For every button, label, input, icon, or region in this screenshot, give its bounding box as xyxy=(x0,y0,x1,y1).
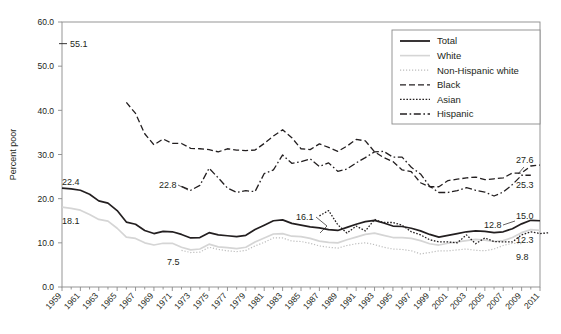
annotation-nonhispanic-white-low: 7.5 xyxy=(167,257,180,267)
y-tick-label: 30.0 xyxy=(37,150,54,160)
x-tick-label: 1963 xyxy=(80,290,100,311)
x-tick-label: 1975 xyxy=(190,290,210,311)
y-tick-label: 20.0 xyxy=(37,194,54,204)
x-tick-label: 1981 xyxy=(246,290,266,311)
x-tick-label: 1961 xyxy=(62,290,82,311)
y-tick-label: 50.0 xyxy=(37,61,54,71)
leader-black-end xyxy=(518,167,524,174)
x-tick-label: 1993 xyxy=(356,290,376,311)
annotation-hispanic-start: 22.8 xyxy=(159,180,177,190)
x-tick-label: 2009 xyxy=(503,290,523,311)
legend-label-black: Black xyxy=(437,79,460,90)
annotation-hispanic-end: 25.3 xyxy=(516,180,534,190)
annotation-total-end: 15.0 xyxy=(516,211,534,221)
x-tick-label: 2007 xyxy=(485,290,505,311)
x-tick-label: 2001 xyxy=(429,290,449,311)
x-tick-label: 1965 xyxy=(99,290,119,311)
x-tick-label: 2011 xyxy=(522,290,542,310)
x-tick-label: 1997 xyxy=(393,290,413,311)
y-tick-label: 40.0 xyxy=(37,106,54,116)
leader-white-end xyxy=(503,221,515,225)
y-tick-label: 10.0 xyxy=(37,238,54,248)
annotation-asian-end: 12.3 xyxy=(516,235,534,245)
y-axis-title: Percent poor xyxy=(8,129,18,181)
annotation-white-end: 12.8 xyxy=(484,220,502,230)
x-tick-label: 1973 xyxy=(172,290,192,311)
legend-label-hispanic: Hispanic xyxy=(437,108,474,119)
x-tick-label: 1969 xyxy=(135,290,155,311)
leader-asian-start xyxy=(316,217,327,233)
x-tick-label: 1995 xyxy=(374,290,394,311)
x-tick-label: 1979 xyxy=(227,290,247,311)
chart-container: 0.010.020.030.040.050.060.0Percent poor1… xyxy=(0,0,561,334)
annotation-black-1959-offchart: 55.1 xyxy=(70,39,88,49)
poverty-rate-line-chart: 0.010.020.030.040.050.060.0Percent poor1… xyxy=(0,0,561,334)
x-tick-label: 1983 xyxy=(264,290,284,311)
x-tick-label: 1959 xyxy=(43,290,63,311)
x-tick-label: 1987 xyxy=(301,290,321,311)
annotation-total-start: 22.4 xyxy=(62,177,80,187)
legend-label-total: Total xyxy=(437,35,457,46)
legend-label-non-hispanic-white: Non-Hispanic white xyxy=(437,65,519,76)
x-tick-label: 1999 xyxy=(411,290,431,311)
x-tick-label: 1989 xyxy=(319,290,339,311)
x-tick-label: 2005 xyxy=(466,290,486,311)
leader-hispanic-start xyxy=(178,185,188,190)
y-tick-label: 60.0 xyxy=(37,17,54,27)
x-tick-label: 1971 xyxy=(154,290,174,311)
series-line-hispanic xyxy=(182,151,531,196)
x-tick-label: 1977 xyxy=(209,290,229,311)
annotation-asian-start: 16.1 xyxy=(296,212,314,222)
annotation-white-start: 18.1 xyxy=(62,216,80,226)
x-tick-label: 1967 xyxy=(117,290,137,311)
x-tick-label: 2003 xyxy=(448,290,468,311)
annotation-nonhispanic-white-end: 9.8 xyxy=(516,252,529,262)
legend-label-white: White xyxy=(437,50,461,61)
x-tick-label: 1991 xyxy=(338,290,358,311)
legend-label-asian: Asian xyxy=(437,94,461,105)
y-tick-label: 0.0 xyxy=(42,282,54,292)
x-tick-label: 1985 xyxy=(282,290,302,311)
annotation-black-end: 27.6 xyxy=(516,155,534,165)
